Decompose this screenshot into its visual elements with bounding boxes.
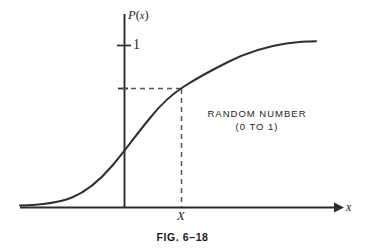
x-axis-label: x (346, 201, 351, 213)
annotation-line-2: (0 TO 1) (196, 121, 318, 134)
y-axis-label: P(x) (128, 9, 149, 22)
annotation-block: RANDOM NUMBER (0 TO 1) (196, 108, 318, 134)
figure-caption: FIG. 6–18 (0, 231, 365, 243)
y-axis-tick-label-one: 1 (133, 38, 140, 52)
figure-container: P(x) 1 x X RANDOM NUMBER (0 TO 1) FIG. 6… (0, 0, 365, 250)
y-axis-label-close-paren: ) (144, 8, 148, 22)
x-axis-arrow-icon (334, 203, 344, 213)
x-axis-mark-label: X (177, 210, 185, 223)
annotation-line-1: RANDOM NUMBER (196, 108, 318, 121)
y-axis-label-main: P (128, 8, 136, 22)
